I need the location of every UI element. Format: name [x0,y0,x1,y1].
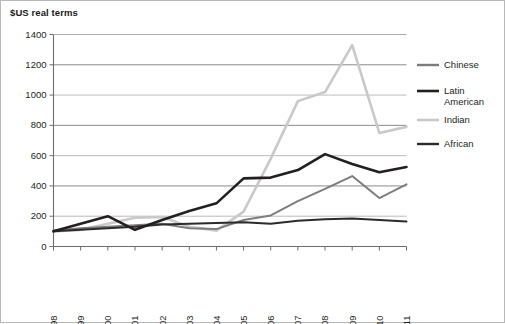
chart-legend: ChineseLatinAmericanIndianAfrican [417,59,484,149]
x-tick-label: 01/01/1999 [76,316,86,324]
x-tick-label: 01/01/2002 [158,316,168,324]
y-tick-label: 400 [31,180,47,191]
x-tick-label: 01/01/2011 [402,316,412,324]
x-axis-tick-labels: 01/01/199801/01/199901/01/200001/01/2001… [49,247,412,324]
legend-label-chinese: Chinese [444,59,479,70]
legend-label-african: African [444,138,474,149]
y-tick-label: 0 [41,241,46,252]
x-tick-label: 01/01/2001 [130,316,140,324]
x-tick-label: 01/01/2004 [212,316,222,324]
x-tick-label: 01/01/2003 [185,316,195,324]
y-tick-label: 1200 [25,59,46,70]
legend-label-latin-american: Latin [444,85,465,96]
y-tick-label: 1000 [25,89,46,100]
x-tick-label: 01/01/2008 [320,316,330,324]
x-tick-label: 01/01/2005 [239,316,249,324]
x-tick-label: 01/01/2006 [266,316,276,324]
x-tick-label: 01/01/2010 [375,316,385,324]
y-tick-label: 1400 [25,29,46,40]
y-tick-label: 800 [31,119,47,130]
data-series [54,45,407,231]
y-tick-label: 200 [31,210,47,221]
x-tick-label: 01/01/2007 [293,316,303,324]
y-tick-label: 600 [31,150,47,161]
gridlines [54,35,407,217]
x-tick-label: 01/01/2000 [103,316,113,324]
legend-label-indian: Indian [444,114,470,125]
axis-lines [54,35,407,247]
x-tick-label: 01/01/1998 [49,316,59,324]
x-tick-label: 01/01/2009 [348,316,358,324]
y-axis-tick-labels: 0200400600800100012001400 [25,29,53,252]
line-chart-plot: 0200400600800100012001400 01/01/199801/0… [1,1,505,324]
series-line-indian [54,45,407,231]
legend-label-latin-american: American [444,96,484,107]
